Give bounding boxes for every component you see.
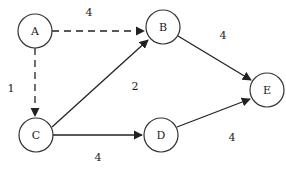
node-b: B xyxy=(146,10,180,44)
node-label-b: B xyxy=(159,21,167,34)
graph-diagram: 4 1 2 4 4 4 A B C D E xyxy=(0,0,286,170)
node-d: D xyxy=(144,118,178,152)
edge-d-e xyxy=(177,99,250,127)
node-label-c: C xyxy=(32,129,40,142)
edge-label-a-b: 4 xyxy=(86,6,93,19)
edge-b-e xyxy=(178,36,251,80)
edge-label-d-e: 4 xyxy=(229,131,236,144)
node-label-d: D xyxy=(157,129,166,142)
edge-label-c-d: 4 xyxy=(95,151,102,164)
edge-label-b-e: 4 xyxy=(220,29,227,42)
edge-label-a-c: 1 xyxy=(8,82,15,95)
node-c: C xyxy=(19,118,53,152)
node-a: A xyxy=(18,14,52,48)
node-label-a: A xyxy=(30,25,40,38)
edge-label-c-b: 2 xyxy=(132,80,139,93)
node-e: E xyxy=(250,73,284,107)
node-label-e: E xyxy=(263,84,271,97)
